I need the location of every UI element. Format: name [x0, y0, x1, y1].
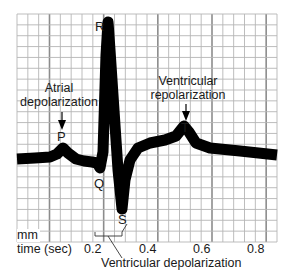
arrow-p [58, 112, 66, 130]
arrow-t [182, 104, 190, 121]
label-p: P [57, 130, 66, 143]
ecg-grid [17, 14, 277, 242]
label-vrepol-line2: repolarization [148, 89, 228, 102]
label-mm: mm [17, 229, 40, 242]
x-tick-0-6: 0.6 [193, 243, 210, 256]
x-tick-0-2: 0.2 [84, 243, 101, 256]
label-atrial-line2: depolarization [19, 96, 99, 109]
label-q: Q [94, 177, 104, 190]
label-s: S [118, 213, 127, 226]
x-tick-0-8: 0.8 [247, 243, 264, 256]
label-time-axis: time (sec) [17, 243, 72, 256]
label-vrepol-line1: Ventricular [148, 75, 228, 88]
label-atrial-line1: Atrial [19, 82, 99, 95]
label-r: R [95, 20, 104, 33]
ecg-diagram [0, 0, 291, 279]
x-tick-0-4: 0.4 [139, 243, 156, 256]
label-t: T [181, 121, 189, 134]
label-ventricular-depolarization: Ventricular depolarization [101, 257, 241, 270]
